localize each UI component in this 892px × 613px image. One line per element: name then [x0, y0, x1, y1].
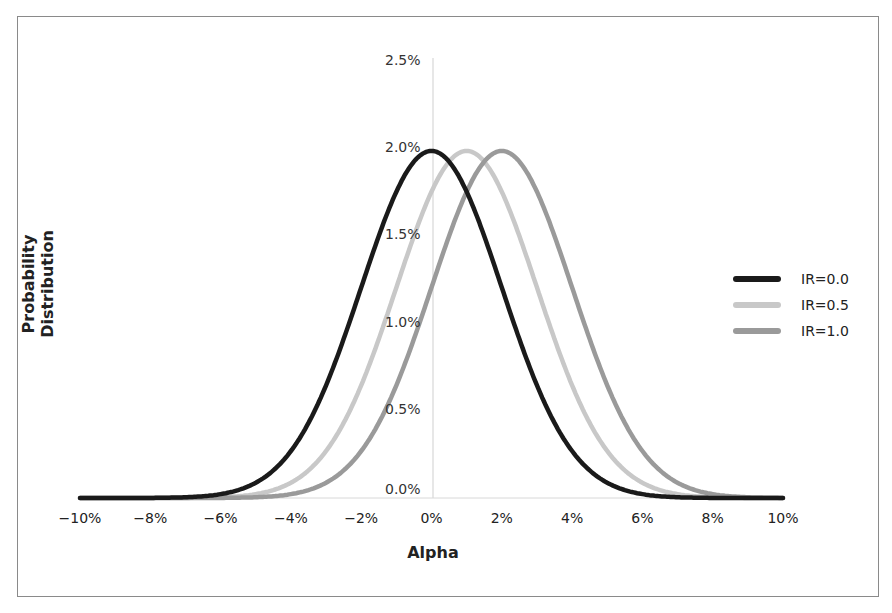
- curve-ir-0-0: [80, 151, 783, 498]
- y-tick-label: 1.0%: [385, 314, 421, 330]
- y-tick-label: 2.0%: [385, 139, 421, 155]
- x-tick-label: 0%: [402, 510, 462, 526]
- legend-item-ir-0-5: IR=0.5: [733, 295, 849, 315]
- y-axis-title: Probability Distribution: [19, 184, 57, 384]
- x-tick-label: 4%: [542, 510, 602, 526]
- y-tick-label: 0.5%: [385, 401, 421, 417]
- x-tick-label: 6%: [612, 510, 672, 526]
- x-tick-label: −10%: [50, 510, 110, 526]
- legend-item-ir-1-0: IR=1.0: [733, 321, 849, 341]
- legend-swatch: [733, 302, 781, 308]
- legend-swatch: [733, 328, 781, 334]
- y-tick-label: 1.5%: [385, 226, 421, 242]
- x-tick-label: −8%: [120, 510, 180, 526]
- x-tick-label: 10%: [753, 510, 813, 526]
- x-axis-title: Alpha: [383, 543, 483, 562]
- x-tick-label: −6%: [191, 510, 251, 526]
- legend-swatch: [733, 276, 781, 282]
- curve-ir-1-0: [80, 151, 783, 498]
- legend-label: IR=0.0: [801, 271, 849, 287]
- x-tick-label: −2%: [331, 510, 391, 526]
- curve-ir-0-5: [80, 151, 783, 498]
- x-tick-label: 2%: [472, 510, 532, 526]
- y-tick-label: 0.0%: [385, 481, 421, 497]
- legend-label: IR=1.0: [801, 323, 849, 339]
- legend-item-ir-0-0: IR=0.0: [733, 269, 849, 289]
- curves-group: [80, 151, 783, 498]
- x-tick-label: 8%: [683, 510, 743, 526]
- y-tick-label: 2.5%: [385, 52, 421, 68]
- legend-label: IR=0.5: [801, 297, 849, 313]
- x-tick-label: −4%: [261, 510, 321, 526]
